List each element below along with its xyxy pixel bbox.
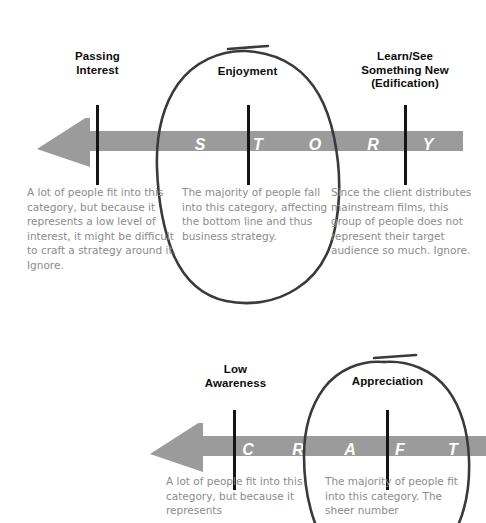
story-arrow: [0, 118, 486, 180]
craft-letter-c: C: [238, 441, 258, 459]
label-passing-interest-line1: Passing: [40, 50, 155, 64]
label-appreciation: Appreciation: [330, 375, 445, 389]
diagram-canvas: S T O R Y Passing Interest Enjoyment Lea…: [0, 0, 486, 523]
craft-letter-r: R: [288, 441, 308, 459]
story-letter-s: S: [190, 136, 210, 154]
craft-letter-t: T: [443, 441, 463, 459]
desc-passing-interest: A lot of people fit into this category, …: [27, 185, 177, 273]
label-enjoyment-line1: Enjoyment: [190, 65, 305, 79]
story-letter-t: T: [248, 136, 268, 154]
tick-enjoyment: [247, 105, 250, 185]
desc-learn-see-something-new: Since the client distributes mainstream …: [331, 185, 474, 258]
label-learn-see-line2: Something New: [340, 64, 470, 78]
label-passing-interest-line2: Interest: [40, 64, 155, 78]
label-low-awareness-line2: Awareness: [178, 377, 293, 391]
desc-enjoyment: The majority of people fall into this ca…: [182, 185, 334, 243]
label-learn-see-line1: Learn/See: [340, 50, 470, 64]
label-passing-interest: Passing Interest: [40, 50, 155, 77]
label-learn-see-line3: (Edification): [340, 77, 470, 91]
story-letter-o: O: [305, 136, 325, 154]
label-learn-see-something-new: Learn/See Something New (Edification): [340, 50, 470, 91]
craft-letter-a: A: [340, 441, 360, 459]
tick-learn-see-something-new: [404, 105, 407, 185]
label-low-awareness: Low Awareness: [178, 363, 293, 390]
story-letter-r: R: [363, 136, 383, 154]
handdrawn-circle-enjoyment: [150, 40, 350, 310]
label-low-awareness-line1: Low: [178, 363, 293, 377]
story-letter-y: Y: [418, 136, 438, 154]
label-appreciation-line1: Appreciation: [330, 375, 445, 389]
tick-passing-interest: [96, 105, 99, 185]
desc-low-awareness: A lot of people fit into this category, …: [166, 474, 316, 518]
desc-appreciation: The majority of people fit into this cat…: [325, 474, 470, 518]
craft-letter-f: F: [390, 441, 410, 459]
label-enjoyment: Enjoyment: [190, 65, 305, 79]
